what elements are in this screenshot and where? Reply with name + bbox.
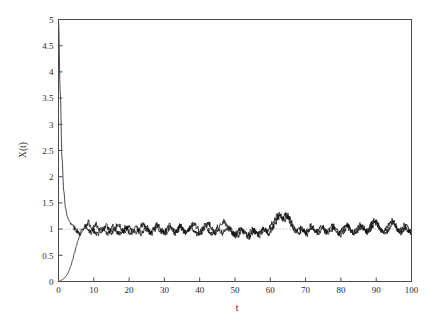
y-tick-label: 1.5 — [42, 198, 54, 208]
line-chart: 00.511.522.533.544.55 010203040506070809… — [0, 0, 433, 329]
y-tick-label: 2.5 — [42, 146, 54, 156]
x-tick-label: 60 — [266, 285, 276, 295]
figure-canvas: 00.511.522.533.544.55 010203040506070809… — [0, 0, 433, 329]
y-tick-label: 4 — [49, 67, 54, 77]
y-tick-label: 1 — [49, 224, 54, 234]
x-tick-label: 80 — [336, 285, 346, 295]
x-tick-label: 100 — [405, 285, 419, 295]
y-tick-label: 2 — [49, 172, 54, 182]
y-tick-label: 3.5 — [42, 93, 54, 103]
x-tick-label: 0 — [56, 285, 61, 295]
y-tick-label: 0.5 — [42, 251, 54, 261]
x-axis-title: t — [236, 303, 239, 313]
chart-background — [0, 0, 433, 329]
x-tick-label: 10 — [89, 285, 99, 295]
x-tick-label: 20 — [125, 285, 135, 295]
x-tick-label: 90 — [372, 285, 382, 295]
x-tick-label: 70 — [301, 285, 311, 295]
x-tick-label: 50 — [231, 285, 241, 295]
y-tick-label: 5 — [49, 15, 54, 25]
x-tick-label: 40 — [195, 285, 205, 295]
y-tick-label: 0 — [49, 277, 54, 287]
y-tick-label: 3 — [49, 120, 54, 130]
y-axis-title: X(t) — [18, 142, 29, 158]
x-tick-label: 30 — [160, 285, 170, 295]
y-tick-label: 4.5 — [42, 41, 54, 51]
